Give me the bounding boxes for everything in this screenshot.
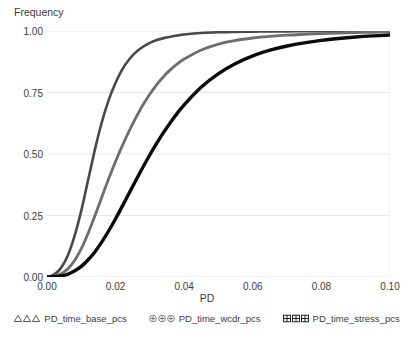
- triangle-icon: [14, 314, 40, 323]
- legend-item-PD_time_base_pcs[interactable]: PD_time_base_pcs: [14, 313, 126, 324]
- circle-plus-icon: [149, 314, 175, 323]
- x-tick-label: 0.04: [174, 281, 193, 292]
- legend-label: PD_time_wcdr_pcs: [179, 313, 261, 324]
- y-axis-tick-labels: 0.000.250.500.751.00: [0, 31, 43, 277]
- x-tick-label: 0.08: [312, 281, 331, 292]
- chart-legend: PD_time_base_pcsPD_time_wcdr_pcsPD_time_…: [0, 313, 414, 324]
- y-tick-label: 1.00: [3, 26, 43, 37]
- x-tick-label: 0.02: [106, 281, 125, 292]
- chart-figure: Frequency 0.000.250.500.751.00 0.000.020…: [0, 0, 414, 338]
- plot-area: [47, 31, 390, 277]
- x-tick-label: 0.06: [243, 281, 262, 292]
- plot-canvas: [47, 31, 390, 277]
- y-tick-label: 0.75: [3, 87, 43, 98]
- series-line-PD_time_stress_pcs: [47, 35, 390, 277]
- legend-item-PD_time_stress_pcs[interactable]: PD_time_stress_pcs: [283, 313, 400, 324]
- x-axis-title: PD: [0, 292, 414, 304]
- legend-label: PD_time_stress_pcs: [313, 313, 400, 324]
- x-tick-label: 0.00: [37, 281, 56, 292]
- y-tick-label: 0.25: [3, 210, 43, 221]
- legend-item-PD_time_wcdr_pcs[interactable]: PD_time_wcdr_pcs: [149, 313, 261, 324]
- x-tick-label: 0.10: [380, 281, 399, 292]
- legend-label: PD_time_base_pcs: [44, 313, 126, 324]
- y-axis-title: Frequency: [14, 6, 64, 18]
- y-tick-label: 0.50: [3, 149, 43, 160]
- grid-square-icon: [283, 314, 309, 323]
